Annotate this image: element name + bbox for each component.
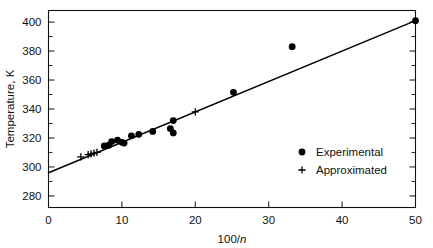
x-axis-title: 100/n <box>218 233 247 245</box>
x-tick-label: 20 <box>189 214 202 226</box>
scatter-plot: 28030032034036038040001020304050Temperat… <box>0 0 433 248</box>
y-axis-title: Temperature, K <box>4 69 16 148</box>
data-point-experimental <box>108 138 115 145</box>
plot-frame <box>49 11 416 208</box>
data-point-experimental <box>170 130 177 137</box>
data-point-experimental <box>289 43 296 50</box>
y-tick-label: 380 <box>22 45 41 57</box>
x-tick-label: 50 <box>409 214 422 226</box>
data-point-experimental <box>135 131 142 138</box>
x-tick-label: 30 <box>262 214 275 226</box>
data-point-experimental <box>128 132 135 139</box>
series-experimental <box>101 17 419 149</box>
y-tick-label: 340 <box>22 103 41 115</box>
y-tick-label: 360 <box>22 74 41 86</box>
x-tick-label: 0 <box>45 214 51 226</box>
legend-marker-experimental <box>299 149 306 156</box>
legend-label: Experimental <box>316 146 383 158</box>
data-point-experimental <box>412 17 419 24</box>
data-point-experimental <box>121 140 128 147</box>
legend-label: Approximated <box>316 164 387 176</box>
data-point-experimental <box>230 89 237 96</box>
y-tick-label: 280 <box>22 190 41 202</box>
data-point-experimental <box>170 117 177 124</box>
data-point-approximated <box>192 108 199 115</box>
legend-marker-approximated <box>298 166 305 173</box>
chart-legend: ExperimentalApproximated <box>298 146 387 176</box>
y-tick-label: 320 <box>22 132 41 144</box>
data-point-experimental <box>149 128 156 135</box>
x-tick-label: 40 <box>336 214 349 226</box>
chart-figure: 28030032034036038040001020304050Temperat… <box>0 0 433 248</box>
y-tick-label: 400 <box>22 16 41 28</box>
data-point-approximated <box>77 153 84 160</box>
x-tick-label: 10 <box>116 214 129 226</box>
y-tick-label: 300 <box>22 161 41 173</box>
